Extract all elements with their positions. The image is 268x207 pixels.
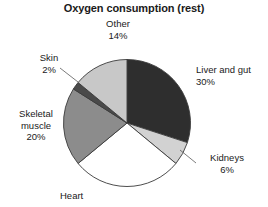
pie-label-kidneys-value: 6% [200, 164, 254, 176]
pie-label-skin-value: 2% [26, 64, 72, 76]
pie-label-other: Other 14% [88, 18, 148, 41]
pie-label-skeletal-muscle: Skeletal muscle 20% [8, 108, 64, 143]
pie-label-liver-and-gut-value: 30% [196, 76, 266, 88]
chart-title: Oxygen consumption (rest) [0, 2, 268, 14]
pie-label-other-value: 14% [88, 30, 148, 42]
pie-label-skin: Skin 2% [26, 52, 72, 75]
pie-label-kidneys: Kidneys 6% [200, 152, 254, 175]
pie-svg [62, 58, 192, 188]
pie-label-skin-name: Skin [26, 52, 72, 64]
pie-label-liver-and-gut: Liver and gut 30% [196, 64, 266, 87]
pie-label-skeletal-muscle-value: 20% [8, 131, 64, 143]
pie-label-liver-and-gut-name: Liver and gut [196, 64, 266, 76]
pie-label-skeletal-muscle-name: Skeletal [8, 108, 64, 120]
pie-label-heart-name: Heart [60, 190, 110, 202]
pie-slices-group [63, 60, 190, 187]
pie-label-other-name: Other [88, 18, 148, 30]
pie-label-kidneys-name: Kidneys [200, 152, 254, 164]
pie-label-heart: Heart [60, 190, 110, 202]
pie-chart-plot-area [62, 58, 192, 188]
pie-label-skeletal-muscle-name2: muscle [8, 120, 64, 132]
pie-chart-figure: Oxygen consumption (rest) Other 14% Live… [0, 0, 268, 207]
